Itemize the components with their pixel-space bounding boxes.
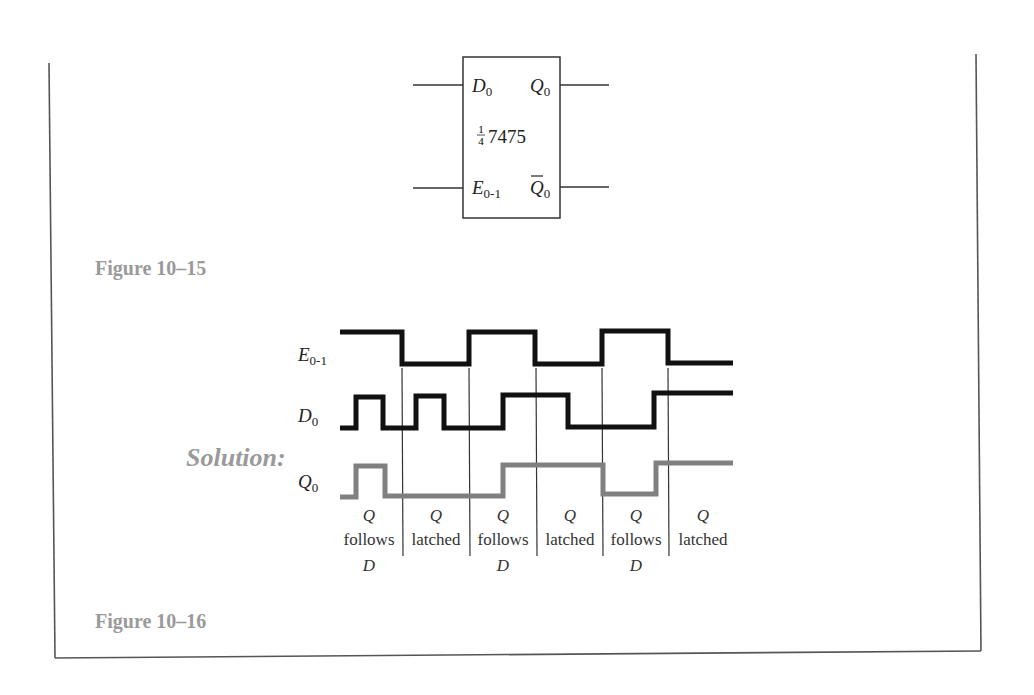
latch-symbol: D0 Q0 E0-1 Q0 1 4 7475 (413, 57, 609, 218)
interval-5-top: Q (630, 506, 642, 525)
page-canvas: D0 Q0 E0-1 Q0 1 4 7475 Figure 10–15 E0-1… (0, 0, 1034, 695)
interval-2-middle: latched (411, 530, 461, 549)
figure-10-15-caption: Figure 10–15 (95, 257, 206, 280)
waveform-e (340, 331, 733, 364)
chip-number: 7475 (488, 126, 526, 147)
interval-6: Q latched (678, 506, 728, 549)
interval-annotations: Q follows D Q latched Q follows D Q latc… (344, 506, 729, 575)
frame-bottom-border (55, 651, 981, 658)
interval-5: Q follows D (611, 506, 662, 575)
signal-label-d: D0 (297, 405, 318, 429)
signal-label-q: Q0 (298, 471, 318, 495)
divider-4 (602, 368, 603, 556)
interval-1-top: Q (363, 506, 375, 525)
chip-part-label: 1 4 7475 (477, 123, 526, 147)
interval-1: Q follows D (344, 506, 395, 575)
interval-6-middle: latched (678, 530, 728, 549)
fraction-denominator: 4 (478, 135, 484, 147)
interval-6-top: Q (697, 506, 709, 525)
interval-4-top: Q (564, 506, 576, 525)
interval-5-bottom: D (629, 556, 643, 575)
interval-5-middle: follows (611, 530, 662, 549)
solution-label: Solution: (186, 443, 286, 472)
pin-label-e: E0-1 (471, 177, 501, 201)
interval-3-top: Q (497, 506, 509, 525)
pin-label-d: D0 (471, 75, 492, 99)
interval-3-bottom: D (496, 556, 510, 575)
signal-label-e: E0-1 (297, 344, 327, 368)
divider-2 (469, 368, 470, 556)
interval-1-middle: follows (344, 530, 395, 549)
divider-1 (402, 368, 403, 556)
fraction-numerator: 1 (478, 123, 484, 135)
frame-left-border (49, 63, 55, 658)
frame-right-border (976, 54, 981, 651)
timing-diagram: E0-1 D0 Q0 Solution: Q follows D Q (186, 331, 733, 575)
interval-1-bottom: D (362, 556, 376, 575)
interval-2: Q latched (411, 506, 461, 549)
interval-3-middle: follows (478, 530, 529, 549)
pin-label-q: Q0 (530, 75, 550, 99)
interval-4: Q latched (545, 506, 595, 549)
interval-4-middle: latched (545, 530, 595, 549)
interval-2-top: Q (430, 506, 442, 525)
figure-10-16-caption: Figure 10–16 (95, 610, 206, 633)
interval-3: Q follows D (478, 506, 529, 575)
pin-label-qbar: Q0 (530, 177, 550, 201)
